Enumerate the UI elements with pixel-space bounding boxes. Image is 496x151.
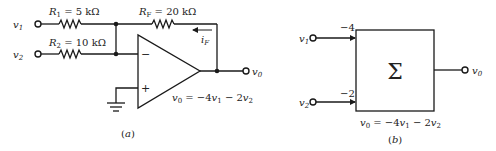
input-v1-label: v1 [13, 19, 23, 32]
panel-b-block-diagram: v1 −4 v2 −2 Σ v0 v0 = −4v1 − 2v2 (b) [299, 22, 483, 145]
gain-v2-label: −2 [340, 88, 355, 99]
equation-a: v0 = −4v1 − 2v2 [172, 92, 253, 105]
input-v1-terminal [35, 21, 41, 27]
feedback-current-label: iF [201, 34, 210, 47]
sigma-icon: Σ [387, 59, 403, 84]
equation-b: v0 = −4v1 − 2v2 [360, 117, 441, 130]
ground-wire [116, 88, 138, 103]
circuit-figure: v1 R1 = 5 kΩ v2 R2 = 10 kΩ RF = 20 kΩ iF… [0, 0, 496, 151]
input-v2-label: v2 [13, 49, 24, 62]
input-v2-terminal [310, 99, 316, 105]
panel-a-summing-amplifier: v1 R1 = 5 kΩ v2 R2 = 10 kΩ RF = 20 kΩ iF… [13, 6, 263, 139]
junction-node [114, 52, 119, 57]
ground-icon [107, 103, 125, 111]
resistor-rf-label: RF = 20 kΩ [138, 6, 196, 19]
gain-v1-label: −4 [340, 22, 355, 33]
output-terminal [462, 67, 468, 73]
input-v1-label: v1 [299, 33, 309, 46]
resistor-r2 [59, 50, 81, 58]
output-v0-label: v0 [472, 65, 483, 78]
opamp-noninverting-sign: + [141, 82, 150, 95]
output-terminal [243, 68, 249, 74]
resistor-rf [152, 20, 174, 28]
resistor-r2-label: R2 = 10 kΩ [48, 37, 106, 50]
output-node [215, 69, 220, 74]
resistor-r1 [59, 20, 81, 28]
opamp-inverting-sign: − [141, 48, 150, 61]
caption-a: (a) [121, 128, 135, 139]
input-v2-label: v2 [299, 97, 310, 110]
output-v0-label: v0 [252, 66, 263, 79]
junction-node [114, 22, 119, 27]
resistor-r1-label: R1 = 5 kΩ [48, 6, 100, 19]
input-v2-terminal [35, 51, 41, 57]
input-v1-terminal [310, 35, 316, 41]
caption-b: (b) [388, 134, 402, 145]
